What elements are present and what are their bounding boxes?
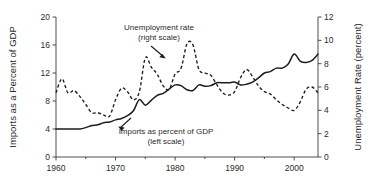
- right-tick-label: 8: [324, 59, 329, 69]
- unemployment-annotation-line1: Unemployment rate: [124, 23, 194, 32]
- left-tick-label: 8: [45, 96, 50, 106]
- x-tick-label: 1970: [106, 163, 125, 173]
- right-tick-label: 2: [324, 129, 329, 139]
- x-tick-label: 2000: [285, 163, 304, 173]
- left-tick-label: 12: [41, 68, 51, 78]
- left-tick-label: 0: [45, 152, 50, 162]
- right-tick-label: 6: [324, 82, 329, 92]
- x-tick-label: 1990: [225, 163, 244, 173]
- x-tick-label: 1960: [47, 163, 66, 173]
- x-tick-label: 1980: [166, 163, 185, 173]
- y2-axis-title: Unemployment Rate (percent): [352, 23, 363, 150]
- right-tick-label: 4: [324, 105, 329, 115]
- left-tick-label: 20: [41, 12, 51, 22]
- y-axis-title: Imports as a Percent of GDP: [7, 26, 18, 147]
- chart-figure: 048121620 024681012 19601970198019902000…: [0, 0, 375, 187]
- right-tick-label: 12: [324, 12, 334, 22]
- right-tick-label: 10: [324, 35, 334, 45]
- dual-axis-line-chart: 048121620 024681012 19601970198019902000…: [0, 0, 375, 187]
- left-tick-label: 16: [41, 40, 51, 50]
- left-tick-label: 4: [45, 124, 50, 134]
- imports-annotation-line2: (left scale): [148, 137, 185, 146]
- right-tick-label: 0: [324, 152, 329, 162]
- imports-annotation-line1: Imports as percent of GDP: [119, 127, 214, 136]
- unemployment-annotation-line2: (right scale): [138, 33, 180, 42]
